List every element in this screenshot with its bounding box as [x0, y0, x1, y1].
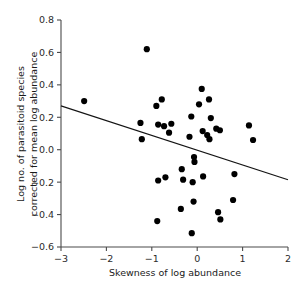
data-point	[139, 136, 145, 142]
data-point	[196, 101, 202, 107]
data-point	[154, 218, 160, 224]
data-point	[188, 113, 194, 119]
data-point	[155, 177, 161, 183]
data-point	[180, 177, 186, 183]
data-point	[144, 46, 150, 52]
data-point	[166, 130, 172, 136]
data-point	[191, 159, 197, 165]
data-point	[199, 86, 205, 92]
x-tick-label: −3	[54, 253, 68, 264]
data-point	[250, 137, 256, 143]
data-point	[246, 122, 252, 128]
data-point	[231, 171, 237, 177]
y-tick-label: 0.4	[39, 79, 54, 90]
x-tick-label: −1	[145, 253, 159, 264]
data-point	[178, 206, 184, 212]
x-tick-label: 2	[285, 253, 291, 264]
data-point	[159, 96, 165, 102]
data-point	[206, 96, 212, 102]
scatter-plot-figure: −0.6−0.4−0.20.00.20.40.60.8 −3−2−1012 Sk…	[0, 0, 305, 284]
data-point	[161, 123, 167, 129]
data-point	[217, 127, 223, 133]
data-point	[189, 230, 195, 236]
x-tick-label: −2	[99, 253, 113, 264]
x-tick-label: 0	[194, 253, 200, 264]
y-tick-label: 0.2	[39, 112, 54, 123]
data-point	[186, 134, 192, 140]
y-tick-label: −0.6	[31, 241, 54, 252]
y-tick-label: 0.8	[39, 14, 54, 25]
data-point	[190, 179, 196, 185]
x-axis-title: Skewness of log abundance	[109, 267, 241, 278]
data-point	[137, 120, 143, 126]
data-point	[81, 98, 87, 104]
data-point	[179, 166, 185, 172]
x-tick-label: 1	[240, 253, 246, 264]
data-point	[168, 121, 174, 127]
data-point	[217, 216, 223, 222]
data-point	[162, 174, 168, 180]
y-axis-title-line1: Log no. of parasitoid species	[15, 66, 26, 202]
data-point	[200, 173, 206, 179]
axes-group	[61, 20, 288, 247]
data-point	[155, 121, 161, 127]
y-tick-label: 0.0	[39, 144, 54, 155]
y-axis-title-line2: corrected for mean log abundance	[28, 52, 39, 217]
data-point	[208, 115, 214, 121]
plot-canvas: −0.6−0.4−0.20.00.20.40.60.8 −3−2−1012 Sk…	[0, 0, 305, 284]
data-point	[230, 197, 236, 203]
data-point	[215, 209, 221, 215]
x-axis-ticks: −3−2−1012	[54, 247, 291, 264]
data-point	[190, 199, 196, 205]
data-point	[153, 103, 159, 109]
y-tick-label: 0.6	[39, 47, 54, 58]
data-point	[206, 136, 212, 142]
